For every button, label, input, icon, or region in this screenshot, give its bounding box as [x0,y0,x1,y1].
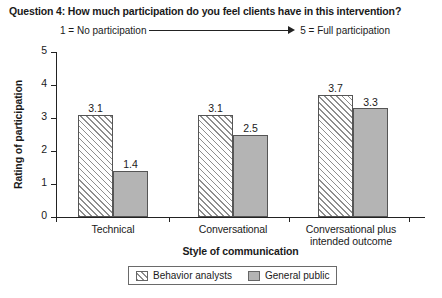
y-axis-line [56,52,57,217]
bar-behavior-analysts-conversational-plus: 3.7 [318,95,353,217]
y-tick-2: 2 [51,151,56,152]
y-tick-1: 1 [51,184,56,185]
scale-legend: 1 = No participation 5 = Full participat… [60,22,390,38]
x-tick-group-1 [169,217,170,222]
x-category-label-technical: Technical [63,224,163,236]
x-axis-title: Style of communication [56,245,425,257]
legend-swatch-gray-icon [248,271,260,281]
bar-general-public-conversational: 2.5 [233,135,268,218]
legend-swatch-hatched-icon [136,271,148,281]
x-tick-group-3 [409,217,410,222]
legend-item-general-public: General public [248,270,329,281]
y-tick-4: 4 [51,85,56,86]
x-axis-line [56,217,425,218]
scale-high-anchor: 5 = Full participation [300,25,390,36]
x-category-label-conversational: Conversational [178,224,288,236]
x-tick-group-2 [289,217,290,222]
bar-behavior-analysts-technical: 3.1 [78,115,113,217]
legend-item-behavior-analysts: Behavior analysts [136,270,232,281]
x-tick-start [56,217,57,222]
right-arrow-icon [149,25,295,35]
bar-general-public-technical: 1.4 [113,171,148,217]
bar-behavior-analysts-conversational: 3.1 [198,115,233,217]
scale-low-anchor: 1 = No participation [60,25,146,36]
y-tick-5: 5 [51,52,56,53]
chart-legend: Behavior analysts General public [128,266,337,285]
y-tick-3: 3 [51,118,56,119]
bar-general-public-conversational-plus: 3.3 [353,108,388,217]
chart-title: Question 4: How much participation do yo… [9,5,433,17]
x-category-label-conversational-plus: Conversational plus intended outcome [293,224,409,247]
plot-area: 0 1 2 3 4 5 Rating of participation 3.1 … [56,52,425,217]
y-axis-title: Rating of participation [12,52,26,217]
